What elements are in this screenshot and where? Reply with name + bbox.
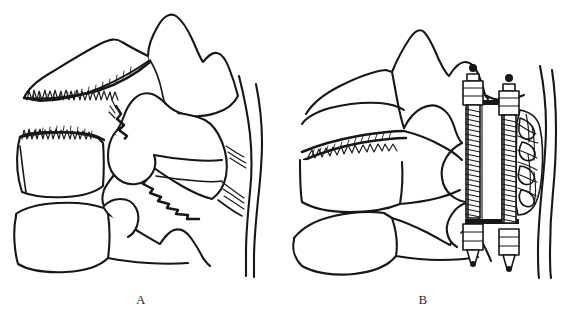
- inferior-vertebra-b: [293, 202, 491, 275]
- panel-b: B: [282, 0, 564, 325]
- panel-b-caption: B: [282, 292, 564, 308]
- panel-a-artwork: [0, 0, 282, 296]
- inferior-vertebra-a: [14, 199, 210, 272]
- bone-graft-b: [516, 110, 543, 215]
- screw-posterior-b: [499, 74, 519, 272]
- panel-a-drawing: [0, 0, 282, 296]
- panel-b-drawing: [282, 0, 564, 296]
- panel-b-artwork: [282, 0, 564, 296]
- reduced-fracture-seam-b: [302, 131, 406, 160]
- panel-a: A: [0, 0, 282, 325]
- screw-anterior-b: [463, 64, 483, 267]
- superior-vertebra-a: [24, 15, 238, 134]
- panel-a-caption: A: [0, 292, 282, 308]
- figure-root: A: [0, 0, 564, 325]
